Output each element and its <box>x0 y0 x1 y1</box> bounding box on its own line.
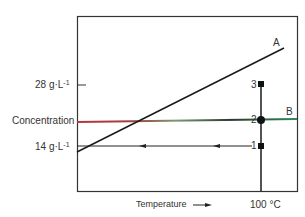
arrow-left-icon <box>139 144 146 148</box>
curve-a-label: A <box>273 38 280 48</box>
arrow-right-icon <box>205 203 212 207</box>
point-1-label: 1 <box>251 141 257 151</box>
plot-frame <box>78 17 298 192</box>
line-a <box>77 48 284 152</box>
point-2-marker <box>257 116 265 124</box>
y-axis-title: Concentration <box>12 116 74 126</box>
point-2-label: 2 <box>251 115 257 125</box>
curve-b-label: B <box>286 107 293 117</box>
x-axis-title: Temperature <box>136 200 187 209</box>
point-3-label: 3 <box>251 80 257 90</box>
y-label-14: 14 g·L-1 <box>35 141 70 152</box>
arrow-left-icon <box>213 144 220 148</box>
y-label-28: 28 g·L-1 <box>35 79 70 90</box>
x-tick-100c: 100 °C <box>250 200 281 210</box>
point-1-marker <box>258 143 264 149</box>
diagram-canvas <box>0 0 305 217</box>
point-3-marker <box>258 81 264 87</box>
